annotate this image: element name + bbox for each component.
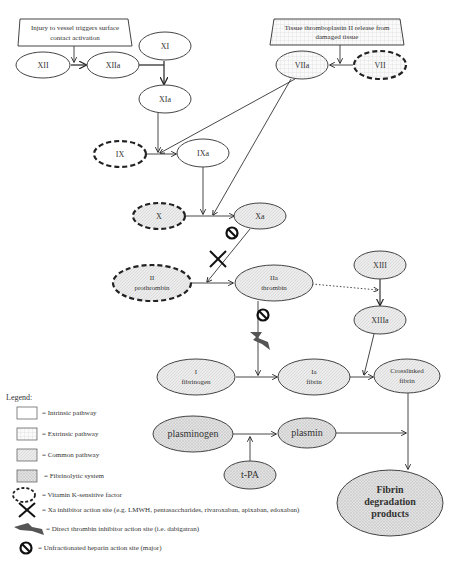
- node-label: prothrombin: [135, 284, 170, 292]
- legend-swatch-extrinsic: [17, 428, 37, 440]
- legend-lightning-icon: [14, 523, 44, 535]
- heparin-symbol-thrombin: [258, 310, 269, 321]
- node-label: IXa: [197, 149, 209, 158]
- legend-cross-icon: [19, 503, 35, 517]
- node-crosslinked-fibrin: Crosslinked fibrin: [374, 359, 440, 393]
- node-XIa: XIa: [139, 85, 191, 113]
- node-I-fibrinogen: I fibrinogen: [157, 359, 235, 395]
- legend-label: = Fibrinolytic system: [44, 472, 105, 480]
- node-Ia-fibrin: Ia fibrin: [278, 359, 350, 395]
- node-label: VII: [374, 61, 385, 70]
- node-Xa: Xa: [234, 203, 286, 229]
- legend-vitamin-k-icon: [13, 488, 35, 502]
- extrinsic-trigger-line2: damaged tissue: [316, 33, 359, 41]
- node-label: Xa: [255, 212, 265, 221]
- coagulation-diagram: Injury to vessel triggers surface contac…: [0, 0, 454, 568]
- node-label: plasminogen: [167, 428, 218, 439]
- node-label: plasmin: [291, 427, 323, 438]
- node-label: fibrin: [399, 377, 415, 385]
- node-VIIa: VIIa: [276, 51, 328, 79]
- heparin-symbol-xa: [227, 228, 238, 239]
- extrinsic-trigger-line1: Tissue thromboplastin II release from: [284, 24, 390, 32]
- node-label: t-PA: [241, 469, 260, 480]
- legend-heparin-icon: [21, 543, 32, 554]
- node-label: IX: [116, 150, 125, 159]
- node-tPA: t-PA: [224, 461, 276, 489]
- node-label: degradation: [364, 496, 416, 507]
- node-label: XII: [37, 61, 48, 70]
- legend-label: = Intrinsic pathway: [42, 409, 97, 417]
- node-label: Fibrin: [376, 484, 404, 495]
- node-label: XIa: [159, 95, 171, 104]
- edges: [71, 45, 408, 469]
- node-label: fibrin: [306, 378, 322, 386]
- node-XIIa: XIIa: [87, 52, 139, 78]
- intrinsic-trigger-box: Injury to vessel triggers surface contac…: [18, 19, 132, 46]
- legend-label: = Vitamin K-sensitive factor: [42, 491, 122, 499]
- intrinsic-trigger-line2: contact activation: [50, 34, 100, 42]
- node-II-prothrombin: II prothrombin: [113, 265, 191, 301]
- node-label: XIIa: [106, 61, 121, 70]
- node-label: XIIIa: [371, 316, 389, 325]
- node-label: IIa: [270, 274, 279, 282]
- node-XIIIa: XIIIa: [354, 306, 406, 334]
- node-fibrin-degradation-products: Fibrin degradation products: [337, 470, 443, 536]
- node-IXa: IXa: [177, 139, 229, 167]
- node-label: VIIa: [295, 61, 310, 70]
- legend-swatch-fibrinolytic: [17, 470, 37, 482]
- legend-label: = Unfractionated heparin action site (ma…: [38, 544, 162, 552]
- node-label: Ia: [311, 368, 317, 376]
- node-label: fibrinogen: [181, 378, 211, 386]
- node-label: thrombin: [261, 284, 287, 292]
- node-label: products: [371, 508, 409, 519]
- extrinsic-trigger-box: Tissue thromboplastin II release from da…: [270, 19, 404, 45]
- legend-label: = Common pathway: [42, 451, 100, 459]
- legend-label: = Xa inhibitor action site (e.g. LMWH, p…: [42, 506, 300, 514]
- node-IX: IX: [94, 141, 146, 167]
- legend-label: = Direct thrombin inhibitor action site …: [46, 525, 200, 533]
- legend-title: Legend:: [6, 393, 32, 402]
- legend-swatch-intrinsic: [17, 407, 37, 419]
- node-X: X: [133, 203, 185, 229]
- node-XI: XI: [139, 32, 191, 60]
- xa-inhibitor-cross: [210, 251, 226, 267]
- direct-thrombin-inhibitor-bolt: [250, 332, 270, 350]
- node-XII: XII: [16, 52, 70, 78]
- node-VII: VII: [354, 51, 406, 79]
- legend-swatch-common: [17, 449, 37, 461]
- legend-label: = Extrinsic pathway: [42, 430, 99, 438]
- node-IIa-thrombin: IIa thrombin: [235, 265, 313, 301]
- node-label: XI: [161, 42, 170, 51]
- node-label: X: [156, 212, 162, 221]
- node-label: XIII: [373, 261, 387, 270]
- intrinsic-trigger-line1: Injury to vessel triggers surface: [31, 24, 119, 32]
- node-plasmin: plasmin: [278, 418, 336, 448]
- node-plasminogen: plasminogen: [153, 416, 233, 452]
- node-label: Crosslinked: [390, 367, 424, 375]
- node-XIII: XIII: [354, 251, 406, 279]
- node-label: II: [150, 274, 155, 282]
